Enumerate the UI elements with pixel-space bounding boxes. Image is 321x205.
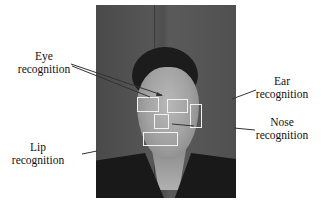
label-line: Nose — [244, 116, 320, 129]
label-line: recognition — [0, 154, 76, 167]
ear-recognition-label: Ear recognition — [244, 75, 320, 101]
nose-box — [154, 114, 169, 129]
label-line: Lip — [0, 141, 76, 154]
lip-box — [143, 132, 178, 146]
face-photo — [96, 5, 236, 198]
label-line: recognition — [6, 63, 82, 76]
lip-leader-line — [82, 151, 97, 154]
label-line: recognition — [244, 129, 320, 142]
ear-box — [190, 104, 202, 128]
eye-recognition-label: Eye recognition — [6, 50, 82, 76]
left-eye-box — [137, 97, 159, 112]
lip-recognition-label: Lip recognition — [0, 141, 76, 167]
right-eye-box — [167, 99, 188, 113]
truncated-caption — [2, 197, 132, 203]
label-line: Ear — [244, 75, 320, 88]
nose-recognition-label: Nose recognition — [244, 116, 320, 142]
label-line: recognition — [244, 88, 320, 101]
label-line: Eye — [6, 50, 82, 63]
